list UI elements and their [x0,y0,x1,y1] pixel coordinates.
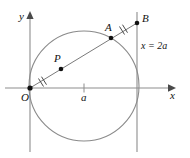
point-A-marker [109,36,114,41]
x-axis-tick-label-a: a [81,92,87,103]
point-label-P: P [54,53,61,64]
geometry-figure: y x O a P A B x = 2a [0,0,190,158]
vertical-line-label: x = 2a [141,41,167,51]
secant-line-OB [30,23,137,88]
point-label-A: A [105,22,112,33]
axis-label-y: y [19,11,24,22]
diagram-canvas [0,0,190,158]
point-B-marker [135,21,140,26]
y-axis [26,11,33,152]
point-label-O: O [21,92,29,103]
point-P-marker [59,67,64,72]
y-axis-arrow-icon [26,11,33,19]
point-O-marker [27,85,32,90]
axis-label-x: x [170,90,175,101]
point-label-B: B [142,13,149,24]
